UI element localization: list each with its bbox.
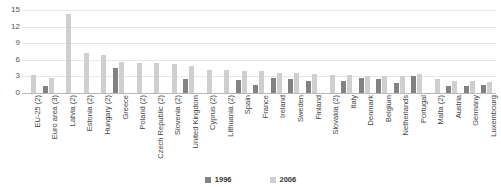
bar-2006 xyxy=(259,71,264,93)
bar-chart: 03691215 EU-25 (2)Euro area (3)Latvia (2… xyxy=(0,0,501,187)
category-label-cell: Estonia (2) xyxy=(75,95,93,157)
bar-2006 xyxy=(435,79,440,93)
legend-item[interactable]: 2006 xyxy=(270,176,297,184)
y-tick-label: 6 xyxy=(2,56,20,64)
bar-2006 xyxy=(172,64,177,93)
x-axis-line xyxy=(22,93,496,94)
category-axis-labels: EU-25 (2)Euro area (3)Latvia (2)Estonia … xyxy=(22,95,496,157)
category-label-cell: Euro area (3) xyxy=(40,95,58,157)
bar-group xyxy=(75,10,93,93)
bar-2006 xyxy=(277,73,282,93)
bar-1996 xyxy=(376,79,381,93)
bar-group xyxy=(110,10,128,93)
category-label-cell: Germany xyxy=(461,95,479,157)
bar-group xyxy=(215,10,233,93)
bar-2006 xyxy=(452,81,457,93)
bar-group xyxy=(40,10,58,93)
bar-2006 xyxy=(242,71,247,93)
y-tick-label: 0 xyxy=(2,89,20,97)
bar-1996 xyxy=(288,79,293,93)
category-label-cell: Italy xyxy=(338,95,356,157)
bar-group xyxy=(303,10,321,93)
bar-2006 xyxy=(189,66,194,93)
category-label-cell: Czech Republic (2) xyxy=(145,95,163,157)
category-label-cell: Portugal xyxy=(408,95,426,157)
bar-2006 xyxy=(487,82,492,93)
category-label-cell: Ireland xyxy=(268,95,286,157)
category-label-cell: Slovenia (2) xyxy=(162,95,180,157)
bar-2006 xyxy=(365,76,370,93)
bar-2006 xyxy=(224,70,229,93)
bar-group xyxy=(127,10,145,93)
bar-1996 xyxy=(183,79,188,93)
category-label-cell: Slovakia (2) xyxy=(320,95,338,157)
bar-2006 xyxy=(101,55,106,93)
bar-2006 xyxy=(330,75,335,93)
y-tick-label: 15 xyxy=(2,6,20,14)
legend-label: 2006 xyxy=(280,176,297,184)
category-label-cell: Malta (2) xyxy=(426,95,444,157)
bar-group xyxy=(373,10,391,93)
category-label-cell: Luxembourg xyxy=(478,95,496,157)
plot-area xyxy=(22,10,496,93)
bar-group xyxy=(92,10,110,93)
bar-1996 xyxy=(306,81,311,93)
bar-group xyxy=(162,10,180,93)
bar-group xyxy=(390,10,408,93)
bar-group xyxy=(408,10,426,93)
category-label: Luxembourg xyxy=(490,95,498,137)
legend-item[interactable]: 1996 xyxy=(205,176,232,184)
y-axis: 03691215 xyxy=(0,10,20,93)
bar-2006 xyxy=(31,75,36,93)
category-label-cell: Austria xyxy=(443,95,461,157)
legend-swatch-icon xyxy=(270,177,276,183)
bar-group xyxy=(285,10,303,93)
category-label-cell: Greece xyxy=(110,95,128,157)
bar-1996 xyxy=(481,85,486,93)
bar-2006 xyxy=(312,74,317,93)
bar-1996 xyxy=(341,81,346,93)
bar-1996 xyxy=(253,85,258,93)
category-label-cell: Hungary (2) xyxy=(92,95,110,157)
bar-2006 xyxy=(137,63,142,93)
category-label-cell: Finland xyxy=(303,95,321,157)
bar-1996 xyxy=(394,83,399,94)
bars-layer xyxy=(22,10,496,93)
bar-1996 xyxy=(113,68,118,93)
bar-group xyxy=(250,10,268,93)
bar-group xyxy=(180,10,198,93)
bar-group xyxy=(233,10,251,93)
category-label-cell: Lithuania (2) xyxy=(215,95,233,157)
bar-group xyxy=(461,10,479,93)
bar-group xyxy=(355,10,373,93)
category-label-cell: France xyxy=(250,95,268,157)
bar-2006 xyxy=(417,74,422,93)
bar-2006 xyxy=(207,70,212,93)
bar-group xyxy=(268,10,286,93)
bar-2006 xyxy=(154,63,159,93)
bar-1996 xyxy=(359,78,364,93)
category-label-cell: Netherlands xyxy=(390,95,408,157)
bar-group xyxy=(22,10,40,93)
bar-2006 xyxy=(66,14,71,93)
bar-group xyxy=(478,10,496,93)
bar-1996 xyxy=(411,76,416,93)
bar-1996 xyxy=(446,86,451,93)
y-tick-label: 12 xyxy=(2,23,20,31)
bar-group xyxy=(338,10,356,93)
chart-legend: 19962006 xyxy=(0,176,501,184)
bar-group xyxy=(57,10,75,93)
bar-2006 xyxy=(347,75,352,93)
category-label-cell: Cyprus (2) xyxy=(197,95,215,157)
legend-label: 1996 xyxy=(215,176,232,184)
bar-2006 xyxy=(84,53,89,93)
category-label-cell: Belgium xyxy=(373,95,391,157)
bar-group xyxy=(145,10,163,93)
bar-2006 xyxy=(400,76,405,93)
category-label-cell: Denmark xyxy=(355,95,373,157)
bar-2006 xyxy=(470,81,475,93)
bar-2006 xyxy=(382,76,387,93)
bar-2006 xyxy=(49,78,54,93)
bar-1996 xyxy=(271,78,276,93)
category-label-cell: Latvia (2) xyxy=(57,95,75,157)
